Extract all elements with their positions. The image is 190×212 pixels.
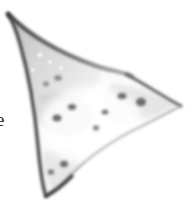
margin-caption-letter: e [0,110,4,129]
speckle [102,109,109,114]
highlight-dot [31,68,34,71]
speckle [136,98,146,106]
highlight-dot [110,97,113,100]
speckle [68,104,76,110]
highlight-dot [86,91,89,94]
speckle [54,75,62,81]
figure-canvas: e [0,0,190,212]
speckle [93,126,99,131]
speckle [60,161,68,167]
specimen-image [0,0,190,212]
highlight-dot [59,66,63,70]
speckle [52,114,61,121]
central-highlight-wash [40,86,144,166]
speckle [43,82,49,87]
speckle [118,93,127,99]
highlight-dot [78,159,81,162]
highlight-dot [38,53,42,57]
highlight-dot [65,126,68,129]
highlight-dot [44,116,48,120]
highlight-dot [48,60,51,63]
highlight-dot [129,117,132,120]
speckle [48,169,54,174]
